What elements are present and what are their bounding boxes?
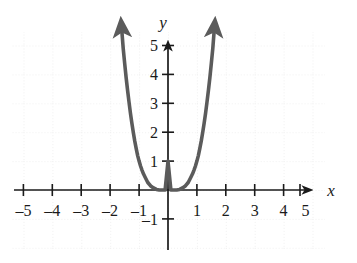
- y-tick-label: 3: [150, 95, 158, 112]
- x-tick-label: 3: [251, 202, 259, 219]
- y-tick-label: 1: [150, 153, 158, 170]
- x-tick-label: 4: [280, 202, 288, 219]
- graph-figure: –5 –4 –3 –2 –1 1 2 3 4 5 1 2 3 4 5 –1 y …: [0, 0, 357, 263]
- x-tick-label: –4: [43, 202, 60, 219]
- coordinate-plane: –5 –4 –3 –2 –1 1 2 3 4 5 1 2 3 4 5 –1 y …: [0, 0, 357, 263]
- y-tick-label-negative-one: –1: [141, 211, 158, 228]
- x-tick-label: –3: [72, 202, 89, 219]
- y-tick-label: 5: [150, 37, 158, 54]
- y-tick-label: 4: [150, 66, 158, 83]
- x-tick-label: 1: [193, 202, 201, 219]
- y-tick-label: 2: [150, 124, 158, 141]
- x-tick-label: –5: [14, 202, 31, 219]
- y-axis-label: y: [157, 13, 167, 32]
- x-tick-label: –2: [101, 202, 118, 219]
- x-tick-label: 5: [302, 202, 310, 219]
- x-axis-label: x: [326, 181, 335, 200]
- x-tick-label: 2: [222, 202, 230, 219]
